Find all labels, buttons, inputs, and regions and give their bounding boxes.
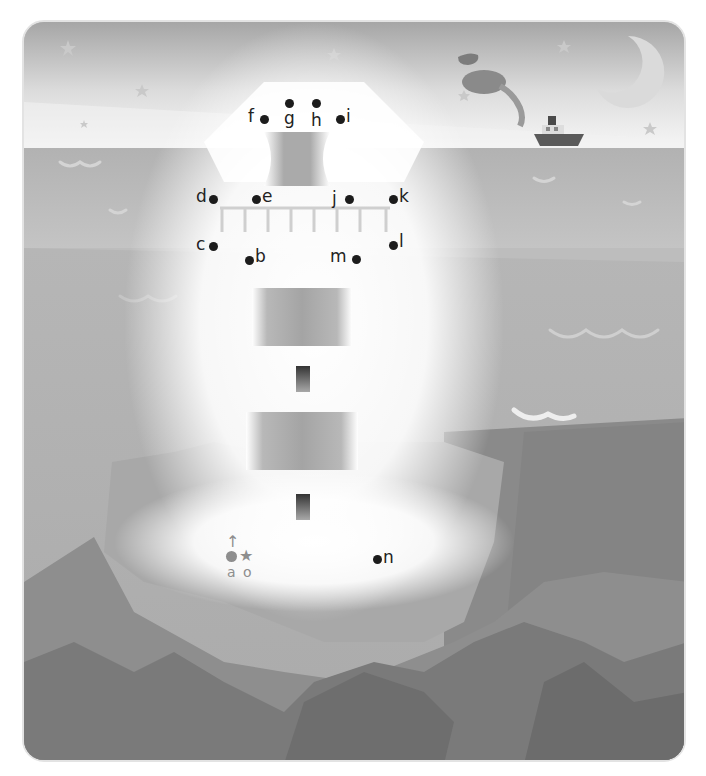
tower-window (296, 494, 310, 520)
dot-label-h: h (311, 112, 322, 129)
dot-n[interactable] (373, 555, 382, 564)
dot-label-o: o (243, 565, 252, 579)
dot-g[interactable] (285, 99, 294, 108)
dot-label-k: k (399, 188, 409, 205)
star-end-icon: ★ (239, 548, 253, 564)
tower-band (246, 412, 358, 470)
dot-label-f: f (248, 108, 254, 125)
dot-label-j: j (332, 190, 337, 207)
dot-e[interactable] (252, 195, 261, 204)
dot-label-c: c (196, 236, 205, 253)
dot-k[interactable] (389, 195, 398, 204)
scene-illustration (24, 22, 686, 762)
dot-label-n: n (383, 549, 394, 566)
dot-label-d: d (196, 188, 207, 205)
dot-label-a: a (227, 565, 236, 579)
smoke-puff-icon (462, 70, 506, 94)
dot-h[interactable] (312, 99, 321, 108)
tower-band (252, 288, 352, 346)
tower-window (296, 366, 310, 392)
dot-m[interactable] (352, 255, 361, 264)
dot-label-b: b (255, 248, 266, 265)
dot-j[interactable] (345, 195, 354, 204)
dot-label-i: i (346, 108, 351, 125)
dot-label-m: m (330, 248, 347, 265)
dot-b[interactable] (245, 256, 254, 265)
lantern-room (264, 132, 330, 186)
dot-f[interactable] (260, 115, 269, 124)
dot-label-l: l (399, 233, 404, 250)
dot-c[interactable] (209, 242, 218, 251)
dot-d[interactable] (209, 195, 218, 204)
dot-a-start[interactable] (226, 551, 237, 562)
dot-label-g: g (284, 110, 295, 127)
picture-frame: f g h i d e j k c b m l n (22, 20, 686, 762)
dot-i[interactable] (336, 115, 345, 124)
start-arrow-icon: ↑ (226, 534, 239, 550)
dot-l[interactable] (389, 241, 398, 250)
dot-label-e: e (262, 188, 272, 205)
